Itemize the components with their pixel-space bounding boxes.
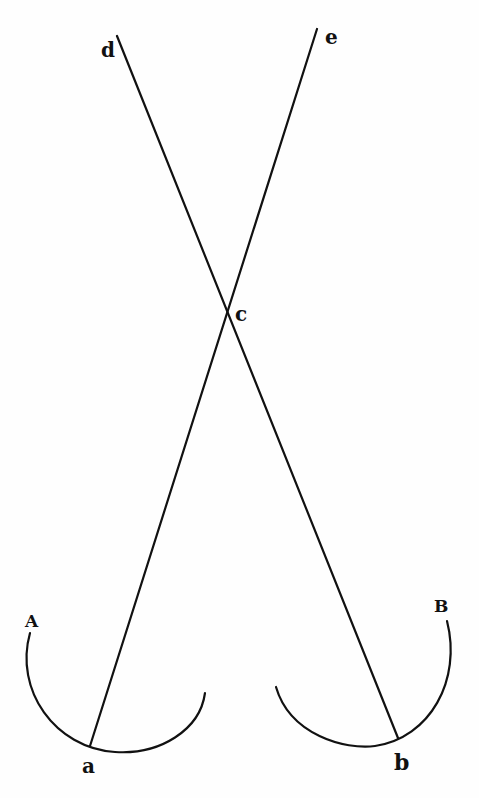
label-b: b <box>394 749 409 775</box>
label-c: c <box>235 302 247 326</box>
arc-B <box>276 621 451 747</box>
diagram-canvas: d e c A B a b <box>0 0 479 798</box>
arc-A <box>27 633 205 752</box>
label-B: B <box>434 596 448 616</box>
line-d-b <box>117 36 398 738</box>
label-a: a <box>82 754 95 778</box>
label-d: d <box>101 38 115 62</box>
diagram: d e c A B a b <box>0 0 479 798</box>
line-e-a <box>90 29 317 746</box>
label-e: e <box>325 25 338 49</box>
label-A: A <box>24 611 39 631</box>
